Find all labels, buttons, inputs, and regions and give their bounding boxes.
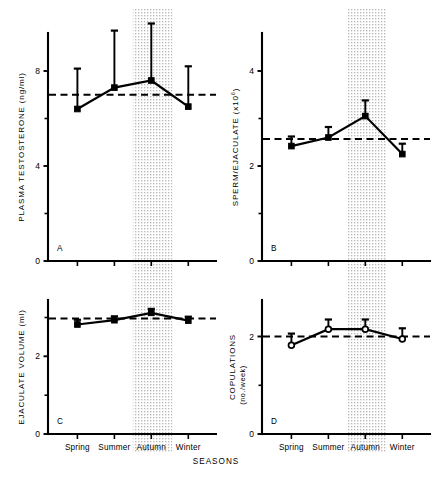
x-category-label: Spring [279, 443, 304, 452]
x-category-label: Autumn [137, 443, 167, 452]
autumn-shaded-band-b [347, 9, 387, 279]
x-category-label: Winter [176, 443, 201, 452]
data-point-marker [75, 322, 81, 328]
panel-letter-d: D [271, 417, 277, 426]
y-tick-label: 4 [249, 66, 254, 76]
x-axis-title: SEASONS [193, 457, 240, 466]
y-tick-label: 2 [249, 332, 254, 342]
data-point-marker [400, 151, 406, 157]
panel-b: 024BSPERM/EJACULATE (x106) [230, 9, 430, 279]
x-category-label: Summer [98, 443, 130, 452]
panel-letter-a: A [57, 244, 63, 253]
y-axis-title-a: PLASMA TESTOSTERONE (ng/ml) [17, 72, 26, 221]
y-tick-label: 0 [35, 429, 40, 439]
figure-canvas: 048APLASMA TESTOSTERONE (ng/ml)024BSPERM… [0, 0, 432, 481]
data-point-marker [363, 113, 369, 119]
figure-panel-grid: 048APLASMA TESTOSTERONE (ng/ml)024BSPERM… [0, 0, 432, 481]
panel-a: 048APLASMA TESTOSTERONE (ng/ml) [17, 9, 216, 279]
panel-letter-b: B [271, 244, 277, 253]
y-tick-label: 4 [35, 161, 40, 171]
data-point-marker [326, 326, 332, 332]
y-tick-label: 0 [35, 256, 40, 266]
y-axis-title-main: SPERM/EJACULATE (x10 [231, 95, 240, 206]
data-point-marker [326, 135, 332, 141]
y-tick-label: 2 [35, 351, 40, 361]
data-point-marker [289, 143, 295, 149]
x-category-label: Spring [65, 443, 90, 452]
data-point-marker [289, 342, 295, 348]
y-tick-label: 8 [35, 66, 40, 76]
panel-c: 02SpringSummerAutumnWinterCEJACULATE VOL… [17, 276, 216, 452]
data-point-marker [149, 78, 155, 84]
data-point-marker [362, 326, 368, 332]
data-point-marker [112, 317, 118, 323]
y-tick-label: 0 [249, 256, 254, 266]
autumn-shaded-band-c [133, 276, 173, 452]
x-category-label: Summer [312, 443, 344, 452]
data-point-marker [112, 85, 118, 91]
data-point-marker [149, 310, 155, 316]
y-axis-title-unit-d: (no./week) [238, 365, 247, 405]
panel-letter-c: C [57, 417, 63, 426]
x-category-label: Autumn [351, 443, 381, 452]
autumn-shaded-band-d [347, 276, 387, 452]
autumn-shaded-band-a [133, 9, 173, 279]
y-axis-title-d: COPULATIONS [228, 334, 237, 400]
x-category-label: Winter [390, 443, 415, 452]
y-tick-label: 2 [249, 161, 254, 171]
y-axis-title-close: ) [231, 88, 240, 92]
y-axis-title-b: SPERM/EJACULATE (x106) [230, 88, 240, 207]
data-point-marker [186, 104, 192, 110]
y-tick-label: 0 [249, 429, 254, 439]
data-point-marker [399, 336, 405, 342]
data-point-marker [186, 318, 192, 324]
data-point-marker [75, 106, 81, 112]
panel-d: 02SpringSummerAutumnWinterDCOPULATIONS(n… [228, 276, 430, 452]
y-axis-title-c: EJACULATE VOLUME (ml) [17, 309, 26, 425]
